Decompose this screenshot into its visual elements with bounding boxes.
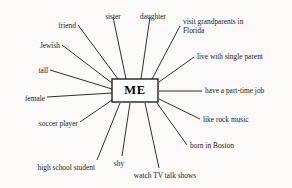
node-label-have-part-time-job: have a part-time job — [205, 87, 264, 96]
node-label-live-with-single-parent: live with single parent — [197, 53, 263, 62]
node-label-female: female — [25, 95, 45, 104]
node-label-jewish: Jewish — [40, 42, 60, 51]
mind-map-diagram: friendsisterdaughtervisit grandparents i… — [0, 0, 292, 188]
spoke-line-high-school-student — [97, 103, 120, 160]
node-label-sister: sister — [105, 13, 121, 22]
center-node-group — [112, 79, 158, 102]
node-label-daughter: daughter — [140, 13, 166, 22]
node-label-tall: tall — [39, 67, 48, 76]
node-label-high-school-student: high school student — [38, 164, 95, 173]
spoke-line-female — [47, 93, 112, 97]
spoke-line-born-in-boston — [157, 103, 187, 145]
spoke-line-shy — [122, 103, 130, 156]
spoke-line-tall — [50, 70, 112, 89]
center-node-box — [112, 79, 158, 102]
node-label-born-in-boston: born in Boston — [190, 142, 234, 151]
node-label-like-rock-music: like rock music — [203, 116, 249, 125]
node-label-visit-grandparents: visit grandparents in Florida — [183, 18, 243, 35]
node-label-soccer-player: soccer player — [39, 120, 78, 129]
spoke-line-sister — [113, 17, 126, 79]
spoke-line-visit-grandparents — [152, 26, 180, 79]
spoke-line-like-rock-music — [159, 99, 200, 119]
node-label-friend: friend — [58, 22, 76, 31]
spoke-line-friend — [78, 25, 118, 79]
node-label-watch-tv-talk-shows: watch TV talk shows — [134, 172, 196, 181]
spoke-line-daughter — [141, 17, 150, 79]
spoke-line-live-with-single-parent — [159, 57, 194, 82]
spoke-line-watch-tv-talk-shows — [145, 103, 159, 168]
spoke-line-jewish — [62, 45, 112, 83]
node-label-shy: shy — [114, 160, 124, 169]
spoke-line-soccer-player — [80, 100, 112, 122]
